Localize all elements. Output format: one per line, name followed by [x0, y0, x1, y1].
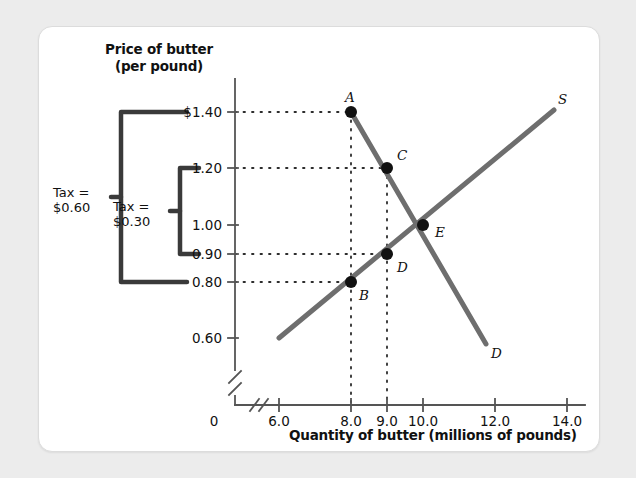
point-A — [345, 106, 357, 118]
tax-label-inner-line1: Tax = — [113, 200, 150, 215]
y-axis-break-1 — [229, 371, 241, 383]
x-axis-title: Quantity of butter (millions of pounds) — [289, 427, 577, 443]
tax-label-outer-line2: $0.60 — [53, 201, 90, 216]
point-E — [417, 219, 429, 231]
xtick-label-6: 6.0 — [258, 413, 300, 429]
tax-bracket-inner — [180, 168, 199, 254]
supply-demand-plot — [39, 27, 599, 451]
chart-panel: Price of butter (per pound) Quantity of … — [38, 26, 600, 452]
point-label-A: A — [345, 89, 355, 105]
ytick-label-140: $1.40 — [172, 104, 222, 120]
ytick-label-100: 1.00 — [172, 217, 222, 233]
point-label-C: C — [397, 147, 407, 163]
xtick-label-0: 0 — [199, 413, 229, 429]
y-axis-break-2 — [229, 383, 241, 395]
xtick-label-10: 10.0 — [399, 413, 447, 429]
point-D — [381, 248, 393, 260]
ytick-label-090: 0.90 — [172, 246, 222, 262]
point-label-E: E — [435, 224, 445, 240]
tax-label-inner-line2: $0.30 — [113, 215, 150, 230]
ytick-label-060: 0.60 — [172, 330, 222, 346]
ytick-label-080: 0.80 — [172, 274, 222, 290]
y-axis-title: Price of butter (per pound) — [89, 41, 229, 75]
curve-label-supply: S — [558, 91, 567, 107]
tax-label-inner: Tax = $0.30 — [113, 200, 150, 230]
xtick-label-12: 12.0 — [471, 413, 519, 429]
point-C — [381, 162, 393, 174]
ytick-label-120: 1.20 — [172, 160, 222, 176]
tax-label-outer-line1: Tax = — [53, 186, 90, 201]
point-label-D: D — [397, 259, 408, 275]
point-B — [345, 276, 357, 288]
point-label-B: B — [359, 287, 369, 303]
y-axis-title-line1: Price of butter — [89, 41, 229, 58]
y-axis-title-line2: (per pound) — [89, 58, 229, 75]
curve-label-demand: D — [491, 345, 502, 361]
tax-label-outer: Tax = $0.60 — [53, 186, 90, 216]
xtick-label-14: 14.0 — [543, 413, 591, 429]
